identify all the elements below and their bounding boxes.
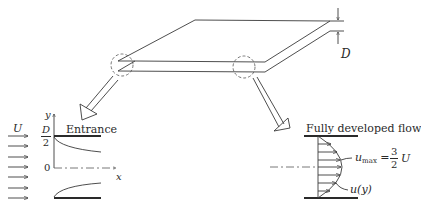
- umax-U: U: [401, 153, 410, 164]
- inflow-arrows: [8, 136, 28, 198]
- entrance-pointer-arrow: [80, 76, 118, 120]
- parallel-plates: [118, 20, 330, 72]
- half-gap-fraction: D 2: [41, 125, 51, 148]
- developed-panel: [270, 136, 358, 198]
- inflow-label: U: [13, 123, 22, 134]
- profile-label: u(y): [350, 184, 372, 195]
- umax-leader: [341, 158, 352, 160]
- entrance-highlight-circle: [111, 54, 133, 76]
- top-boundary-layer: [54, 137, 101, 152]
- origin-label: 0: [44, 163, 50, 173]
- entrance-title: Entrance: [66, 124, 117, 135]
- bottom-boundary-layer: [54, 183, 101, 197]
- y-axis-label: y: [45, 110, 51, 120]
- uy-leader: [336, 183, 348, 190]
- x-axis-label: x: [116, 172, 122, 182]
- developed-highlight-circle: [233, 56, 255, 78]
- umax-label: umax =: [355, 152, 390, 165]
- developed-pointer-arrow: [253, 77, 290, 131]
- gap-dimension: [330, 8, 344, 44]
- umax-fraction: 3 2: [390, 147, 398, 170]
- developed-title: Fully developed flow: [306, 123, 421, 134]
- gap-label: D: [341, 48, 351, 60]
- velocity-arrows: [318, 144, 341, 191]
